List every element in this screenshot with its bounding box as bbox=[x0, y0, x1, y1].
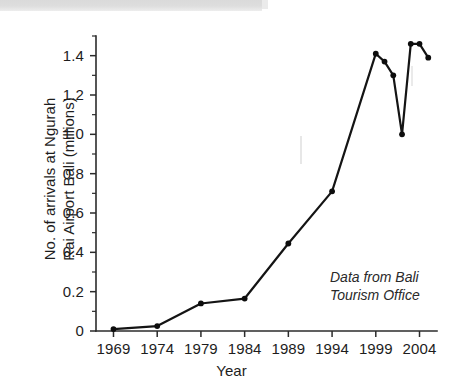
data-point bbox=[154, 323, 160, 329]
source-note-line-2: Tourism Office bbox=[330, 286, 456, 304]
data-point bbox=[373, 51, 379, 57]
y-axis-title-line-1: No. of arrivals at Ngurah bbox=[40, 44, 59, 314]
source-note: Data from Bali Tourism Office bbox=[330, 268, 456, 304]
data-point bbox=[329, 188, 335, 194]
x-tick-marks bbox=[113, 331, 419, 337]
y-axis-title-line-2: Rai Airport Bali (millions) bbox=[59, 44, 78, 314]
data-point bbox=[285, 241, 291, 247]
data-point bbox=[242, 296, 248, 302]
data-point bbox=[111, 326, 117, 332]
scan-smudge-upper bbox=[300, 136, 302, 164]
chart-figure: 00.20.40.60.81.01.21.4 19691974197919841… bbox=[0, 0, 463, 390]
x-tick-label: 2004 bbox=[394, 340, 446, 357]
data-point bbox=[408, 41, 414, 47]
y-axis-title: No. of arrivals at Ngurah Rai Airport Ba… bbox=[40, 44, 78, 314]
scan-smudge-right bbox=[411, 66, 413, 86]
y-tick-marks bbox=[90, 36, 96, 331]
data-point bbox=[417, 41, 423, 47]
data-point bbox=[425, 55, 431, 61]
data-point bbox=[390, 72, 396, 78]
y-tick-label: 0 bbox=[38, 322, 84, 339]
data-point bbox=[382, 59, 388, 65]
data-point bbox=[399, 131, 405, 137]
source-note-line-1: Data from Bali bbox=[330, 268, 456, 286]
x-axis-title: Year bbox=[0, 362, 463, 379]
data-point bbox=[198, 301, 204, 307]
